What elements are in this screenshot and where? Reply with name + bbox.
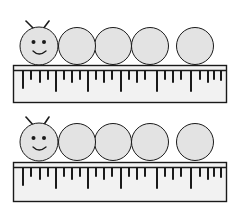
ruler xyxy=(14,163,227,202)
caterpillar-measurement-1 xyxy=(0,0,240,104)
ruler xyxy=(14,66,227,103)
caterpillar-measurement-2 xyxy=(0,104,240,208)
caterpillar-body xyxy=(20,123,214,161)
caterpillar-ruler-illustration-1 xyxy=(0,0,240,104)
caterpillar-ruler-illustration-2 xyxy=(0,104,240,208)
caterpillar-body xyxy=(20,27,214,65)
